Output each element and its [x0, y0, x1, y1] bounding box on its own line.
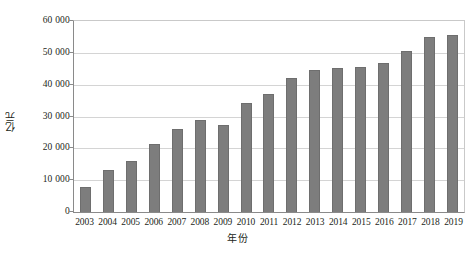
x-axis-tick-label: 2009 [211, 215, 234, 231]
y-axis-tick-label: 0 [20, 206, 70, 216]
bar[interactable] [263, 94, 274, 212]
bar-slot [349, 21, 372, 212]
bar[interactable] [401, 51, 412, 212]
y-axis-tick-label: 50 000 [20, 47, 70, 57]
bar-slot [395, 21, 418, 212]
y-axis-tick-label: 40 000 [20, 79, 70, 89]
bar[interactable] [218, 125, 229, 212]
bar[interactable] [195, 120, 206, 212]
x-axis-tick-label: 2014 [327, 215, 350, 231]
x-axis-tick-label: 2004 [96, 215, 119, 231]
x-axis-tick-label: 2012 [281, 215, 304, 231]
bar-slot [189, 21, 212, 212]
bar-slot [441, 21, 464, 212]
x-axis-tick-label: 2010 [234, 215, 257, 231]
bar-slot [280, 21, 303, 212]
y-axis-tick-label-group: 010 00020 00030 00040 00050 00060 000 [20, 12, 70, 220]
bar-slot [143, 21, 166, 212]
x-axis-tick-label: 2006 [142, 215, 165, 231]
x-axis-tick-label: 2016 [373, 215, 396, 231]
x-axis-tick-label: 2018 [419, 215, 442, 231]
x-axis-tick-label-group: 2003200420052006200720082009201020112012… [73, 215, 465, 231]
y-axis-tick-label: 20 000 [20, 142, 70, 152]
bar[interactable] [355, 67, 366, 212]
bar[interactable] [103, 170, 114, 212]
x-axis-tick-label: 2017 [396, 215, 419, 231]
x-axis-tick-label: 2005 [119, 215, 142, 231]
bar-slot [235, 21, 258, 212]
x-axis-title: 年份 [0, 233, 475, 245]
y-axis-tick-label: 30 000 [20, 111, 70, 121]
x-axis-tick-label: 2007 [165, 215, 188, 231]
plot-area [73, 20, 465, 213]
y-axis-tick-label: 60 000 [20, 15, 70, 25]
bar[interactable] [126, 161, 137, 212]
x-axis-tick-label: 2013 [304, 215, 327, 231]
bar[interactable] [378, 63, 389, 212]
bar-slot [212, 21, 235, 212]
y-axis-title: 亿元 [0, 92, 22, 152]
bar[interactable] [447, 35, 458, 212]
bar[interactable] [286, 78, 297, 212]
bar[interactable] [424, 37, 435, 212]
bar-slot [258, 21, 281, 212]
x-axis-tick-label: 2015 [350, 215, 373, 231]
x-axis-tick-label: 2019 [442, 215, 465, 231]
bar-slot [166, 21, 189, 212]
bar[interactable] [80, 187, 91, 212]
bar-slot [418, 21, 441, 212]
bar[interactable] [309, 70, 320, 212]
x-axis-tick-label: 2003 [73, 215, 96, 231]
bar[interactable] [149, 144, 160, 212]
bar-chart-figure: 亿元 010 00020 00030 00040 00050 00060 000… [0, 0, 475, 266]
y-axis-tick-label: 10 000 [20, 174, 70, 184]
bar-slot [326, 21, 349, 212]
bar-series-group [74, 21, 464, 212]
bar[interactable] [332, 68, 343, 212]
bar-slot [97, 21, 120, 212]
bar-slot [74, 21, 97, 212]
bar[interactable] [172, 129, 183, 212]
bar-slot [303, 21, 326, 212]
x-axis-tick-label: 2008 [188, 215, 211, 231]
bar[interactable] [241, 103, 252, 212]
x-axis-tick-label: 2011 [258, 215, 281, 231]
bar-slot [372, 21, 395, 212]
bar-slot [120, 21, 143, 212]
